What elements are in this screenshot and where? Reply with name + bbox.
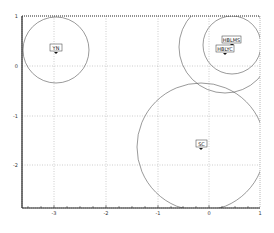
x-tick-label: -1 bbox=[156, 210, 161, 216]
x-tick-label: 1 bbox=[258, 210, 261, 216]
point-label: SC bbox=[198, 141, 205, 147]
x-tick-label: -3 bbox=[52, 210, 57, 216]
point-label: HBLMS bbox=[223, 37, 240, 43]
y-axis-labels: 1 0 -1 -2 bbox=[13, 13, 18, 168]
point-label: YN bbox=[52, 45, 60, 51]
x-tick-label: 0 bbox=[207, 210, 210, 216]
plot-area bbox=[22, 1, 271, 211]
y-tick-label: -2 bbox=[13, 162, 18, 168]
chart: -3 -2 -1 0 1 1 0 -1 -2 YN HBLMS HBLYC SC bbox=[0, 0, 274, 233]
x-axis-labels: -3 -2 -1 0 1 bbox=[52, 210, 262, 216]
y-tick-label: 0 bbox=[15, 63, 18, 69]
point-label: HBLYC bbox=[217, 46, 233, 52]
y-tick-label: 1 bbox=[15, 13, 18, 19]
x-tick-label: -2 bbox=[104, 210, 109, 216]
y-tick-label: -1 bbox=[13, 113, 18, 119]
